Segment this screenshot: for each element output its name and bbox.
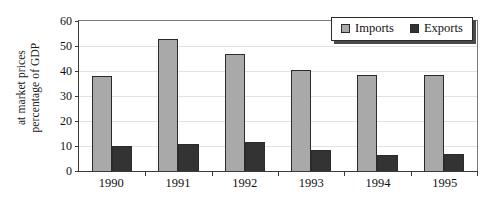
x-axis-label-1995: 1995 (411, 176, 478, 200)
legend-item-imports: Imports (341, 21, 394, 36)
x-axis-label-1993: 1993 (278, 176, 345, 200)
x-axis-label-1991: 1991 (145, 176, 212, 200)
y-axis-title: percentage of GDP at market prices (0, 0, 58, 175)
legend-swatch-exports (410, 24, 419, 33)
x-axis-label-1990: 1990 (78, 176, 145, 200)
y-axis-tick (75, 171, 79, 172)
bar-imports-1993 (291, 70, 311, 171)
legend-label-exports: Exports (424, 21, 463, 36)
y-axis-tick-label: 60 (60, 14, 72, 29)
bar-imports-1990 (92, 76, 112, 171)
bar-group-1994 (344, 21, 410, 171)
legend-swatch-imports (341, 24, 350, 33)
y-axis-tick-label: 20 (60, 114, 72, 129)
bar-chart: percentage of GDP at market prices 01020… (0, 0, 500, 209)
x-axis-label-1992: 1992 (211, 176, 278, 200)
bar-group-1990 (79, 21, 145, 171)
y-axis-title-line-2: at market prices (15, 50, 29, 125)
bar-groups (79, 21, 477, 171)
y-axis-tick-label: 40 (60, 64, 72, 79)
y-axis-tick-label: 50 (60, 39, 72, 54)
bar-imports-1994 (357, 75, 377, 171)
bar-exports-1990 (112, 146, 132, 171)
y-axis-tick-label: 30 (60, 89, 72, 104)
bar-imports-1995 (424, 75, 444, 171)
bar-group-1995 (411, 21, 477, 171)
bar-exports-1994 (377, 155, 397, 171)
bar-exports-1995 (444, 154, 464, 172)
bar-exports-1992 (245, 142, 265, 171)
y-axis-title-line-1: percentage of GDP (29, 43, 43, 133)
bar-imports-1992 (225, 54, 245, 172)
legend: Imports Exports (331, 17, 473, 41)
bar-group-1991 (145, 21, 211, 171)
bar-imports-1991 (158, 39, 178, 172)
x-axis-labels: 199019911992199319941995 (78, 176, 478, 200)
plot-area: 0102030405060 (78, 20, 478, 172)
bar-exports-1993 (311, 150, 331, 171)
bar-exports-1991 (178, 144, 198, 172)
x-axis-label-1994: 1994 (345, 176, 412, 200)
y-axis-tick-label: 0 (66, 164, 72, 179)
y-axis-tick-label: 10 (60, 139, 72, 154)
bar-group-1992 (212, 21, 278, 171)
bar-group-1993 (278, 21, 344, 171)
legend-item-exports: Exports (410, 21, 463, 36)
legend-label-imports: Imports (355, 21, 394, 36)
